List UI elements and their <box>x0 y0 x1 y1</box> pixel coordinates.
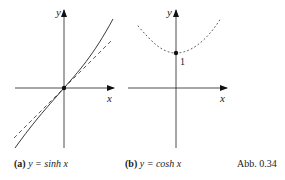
panel-b-tag: (b) <box>125 158 137 169</box>
panel-b-intercept-dot <box>174 51 178 55</box>
panel-a-x-label: x <box>107 93 112 104</box>
panel-a-tag: (a) <box>14 158 26 169</box>
panel-a-caption-math: y = sinh x <box>28 158 68 169</box>
panel-b-caption: (b) y = cosh x <box>125 159 181 169</box>
panel-a-caption: (a) y = sinh x <box>14 159 68 169</box>
panel-b-y-label: y <box>167 7 172 18</box>
figure-canvas <box>0 0 285 180</box>
panel-b-x-label: x <box>220 93 225 104</box>
panel-b-cosh-curve <box>138 18 221 53</box>
panel-b-caption-math: y = cosh x <box>140 158 181 169</box>
panel-a-origin-dot <box>62 86 66 90</box>
panel-b-intercept-label: 1 <box>180 57 185 67</box>
panel-a-y-label: y <box>56 7 61 18</box>
figure-number: Abb. 0.34 <box>237 159 277 169</box>
panel-b-plot <box>128 10 227 148</box>
panel-a-plot <box>14 10 114 148</box>
